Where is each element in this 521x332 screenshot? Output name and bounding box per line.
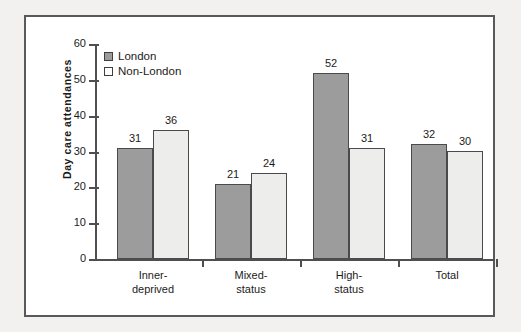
bar-value-label: 30 [459, 135, 471, 147]
y-axis-tick-label: 40 [74, 109, 86, 121]
category-label-line: deprived [103, 282, 203, 296]
bar-item: 36 [153, 130, 189, 259]
bar-non-london [447, 151, 483, 259]
y-axis-tick-label: 0 [80, 252, 86, 264]
y-axis-tick-label: 60 [74, 37, 86, 49]
y-axis-tick-mark [89, 116, 99, 118]
bar-item: 32 [411, 144, 447, 259]
plot-area: 6050403020100 3136212452313230 Inner-dep… [95, 44, 495, 260]
category-label: Mixed-status [201, 268, 301, 296]
category-label-line: Total [397, 268, 497, 282]
bar-item: 24 [251, 173, 287, 259]
axis-end-tick [496, 259, 498, 267]
bar-group: 3230 [408, 144, 486, 259]
bar-non-london [349, 148, 385, 259]
x-axis-line [95, 259, 495, 261]
bar-london [411, 144, 447, 259]
bar-london [313, 73, 349, 259]
bar-value-label: 31 [361, 132, 373, 144]
category-label-line: status [201, 282, 301, 296]
y-axis-title: Day care attendances [61, 34, 73, 204]
y-axis-tick-label: 10 [74, 216, 86, 228]
category-label: Total [397, 268, 497, 282]
category-label-line: High- [299, 268, 399, 282]
chart-frame: Day care attendances London Non-London 6… [24, 15, 495, 317]
bar-value-label: 36 [165, 114, 177, 126]
bar-item: 30 [447, 151, 483, 259]
category-separator-tick [202, 259, 204, 267]
bar-london [215, 184, 251, 259]
bar-group: 3136 [114, 130, 192, 259]
bar-value-label: 32 [423, 128, 435, 140]
bar-item: 31 [117, 148, 153, 259]
category-label-line: Mixed- [201, 268, 301, 282]
chart-page: Day care attendances London Non-London 6… [0, 0, 521, 332]
bar-value-label: 21 [227, 168, 239, 180]
bar-value-label: 24 [263, 157, 275, 169]
bar-non-london [153, 130, 189, 259]
y-axis-tick-label: 50 [74, 73, 86, 85]
category-separator-tick [398, 259, 400, 267]
bar-group: 5231 [310, 73, 388, 259]
y-axis-tick-label: 20 [74, 180, 86, 192]
bar-value-label: 31 [129, 132, 141, 144]
bar-london [117, 148, 153, 259]
y-axis-tick-label: 30 [74, 145, 86, 157]
category-label-line: Inner- [103, 268, 203, 282]
y-axis-tick-mark [89, 80, 99, 82]
category-label-line: status [299, 282, 399, 296]
y-axis-tick-mark [89, 44, 99, 46]
y-axis-tick-mark [89, 187, 99, 189]
category-label: Inner-deprived [103, 268, 203, 296]
category-separator-tick [300, 259, 302, 267]
category-label: High-status [299, 268, 399, 296]
y-axis-tick-mark [89, 259, 99, 261]
y-axis-tick-mark [89, 152, 99, 154]
bar-item: 52 [313, 73, 349, 259]
bar-item: 21 [215, 184, 251, 259]
bar-value-label: 52 [325, 57, 337, 69]
bar-item: 31 [349, 148, 385, 259]
bar-non-london [251, 173, 287, 259]
bar-group: 2124 [212, 173, 290, 259]
y-axis-tick-mark [89, 223, 99, 225]
